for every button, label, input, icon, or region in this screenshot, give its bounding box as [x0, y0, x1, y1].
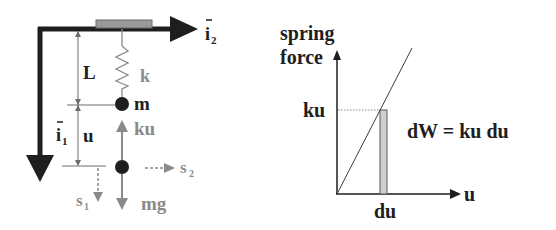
spring-icon	[116, 29, 128, 98]
y-axis-arrow-icon	[333, 50, 341, 60]
label-i2: i 2	[205, 20, 217, 46]
displacement-label: u	[83, 125, 94, 146]
spring-force-arrow-icon	[116, 120, 128, 132]
svg-text:s: s	[76, 191, 83, 210]
arrow-i2-icon	[170, 16, 198, 42]
svg-text:i: i	[205, 24, 210, 44]
virtual-disp-s2-arrow-icon	[164, 163, 175, 173]
force-line	[337, 48, 412, 194]
svg-text:1: 1	[62, 135, 68, 147]
svg-text:s: s	[180, 158, 187, 177]
spring-mass-system: i 2 i 1 L u k m ku	[26, 16, 217, 214]
x-axis-arrow-icon	[450, 189, 461, 199]
mass-label: m	[134, 93, 150, 114]
work-increment-strip	[380, 110, 387, 194]
svg-text:2: 2	[189, 168, 194, 179]
spring-force-label: ku	[134, 118, 156, 139]
diagram-canvas: i 2 i 1 L u k m ku	[0, 0, 556, 230]
weight-label: mg	[141, 193, 167, 214]
label-s1: s 1	[76, 191, 89, 212]
virtual-disp-s1-arrow-icon	[93, 192, 103, 202]
work-equation: dW = ku du	[407, 120, 509, 142]
weight-arrow-icon	[116, 198, 128, 210]
label-s2: s 2	[180, 158, 194, 179]
axis-frame	[26, 16, 198, 182]
svg-text:i: i	[56, 125, 61, 145]
x-tick-du: du	[374, 200, 396, 222]
arrow-i1-icon	[26, 155, 54, 182]
spring-force-chart: spring force u ku du dW = ku du	[280, 22, 509, 222]
ceiling-support	[96, 20, 152, 28]
mass-rest-icon	[115, 97, 129, 111]
spring-constant-label: k	[140, 66, 150, 86]
svg-text:2: 2	[211, 34, 217, 46]
mass-displaced-icon	[115, 160, 129, 174]
y-axis-label-line2: force	[280, 46, 323, 68]
svg-text:1: 1	[84, 201, 89, 212]
y-axis-label-line1: spring	[280, 22, 334, 45]
x-axis-label: u	[464, 183, 475, 205]
length-label: L	[83, 62, 96, 83]
y-tick-ku: ku	[303, 99, 325, 121]
label-i1: i 1	[56, 122, 68, 147]
